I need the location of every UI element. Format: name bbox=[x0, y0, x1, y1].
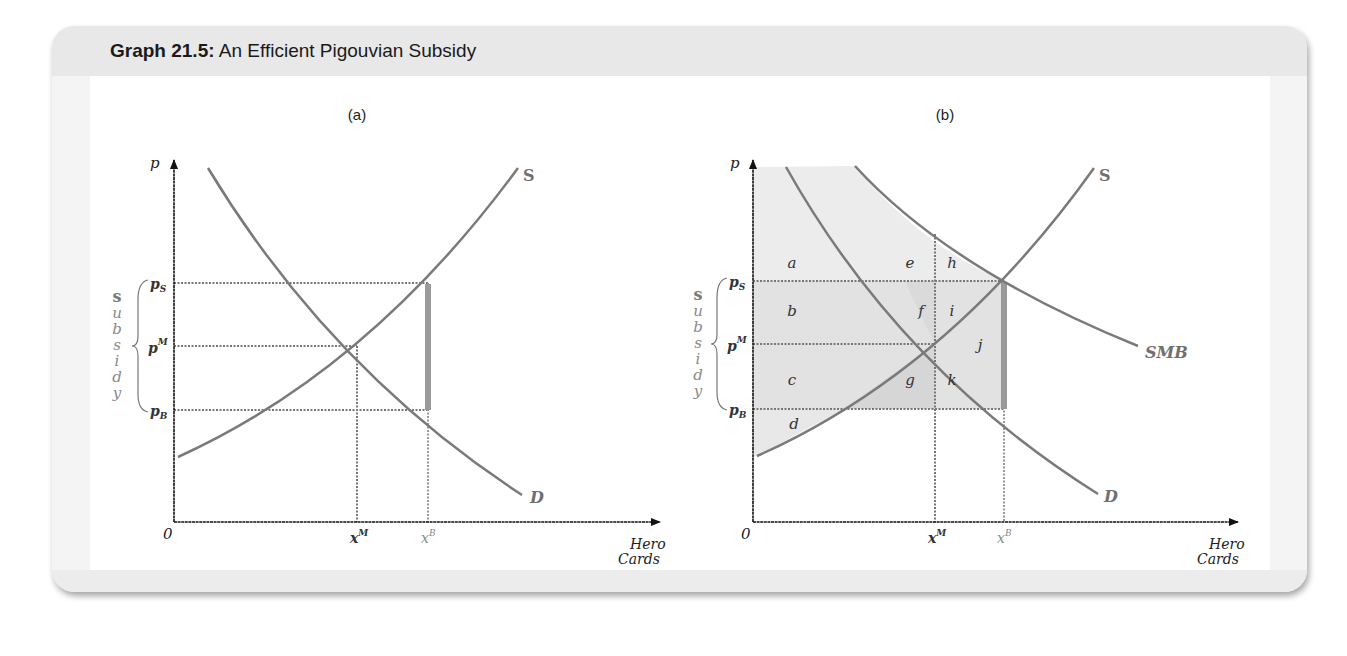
demand-label: D bbox=[1103, 487, 1118, 506]
panel-b: (b) S D SMB p 0 Hero Cards bbox=[693, 106, 1245, 567]
subsidy-vertical-label: s u b s i d y bbox=[693, 285, 703, 400]
y-axis-label: p bbox=[730, 154, 740, 172]
panel-b-label: (b) bbox=[936, 106, 954, 123]
panel-a-label: (a) bbox=[348, 106, 366, 123]
demand-label: D bbox=[529, 488, 544, 507]
pb-label: pB bbox=[729, 402, 747, 420]
xm-label: xM bbox=[927, 528, 947, 546]
ps-label: pS bbox=[150, 276, 167, 294]
price-labels: pS pM pB bbox=[727, 274, 748, 420]
svg-text:y: y bbox=[112, 384, 122, 402]
region-e: e bbox=[906, 254, 915, 272]
region-k: k bbox=[947, 371, 956, 389]
price-labels: pS pM pB bbox=[148, 276, 169, 421]
pb-label: pB bbox=[150, 403, 168, 421]
ps-label: pS bbox=[729, 274, 746, 292]
region-g: g bbox=[905, 371, 915, 389]
x-axis-label-line1: Hero bbox=[1208, 536, 1245, 552]
svg-text:y: y bbox=[693, 382, 703, 400]
panel-a: (a) S D p 0 Hero Cards pS pM pB bbox=[112, 106, 666, 567]
supply-label: S bbox=[1099, 166, 1111, 185]
demand-curve bbox=[208, 168, 522, 495]
region-a: a bbox=[788, 254, 797, 272]
shaded-region-d bbox=[753, 409, 845, 456]
y-axis-label: p bbox=[150, 154, 160, 172]
supply-label: S bbox=[523, 166, 535, 185]
origin-label: 0 bbox=[741, 525, 751, 543]
subsidy-brace bbox=[711, 278, 727, 410]
xb-label: xB bbox=[421, 528, 436, 546]
x-axis-label-line1: Hero bbox=[629, 536, 666, 552]
region-d: d bbox=[789, 415, 799, 433]
xb-label: xB bbox=[997, 528, 1012, 546]
supply-curve bbox=[178, 168, 518, 457]
region-i: i bbox=[950, 302, 955, 320]
region-b: b bbox=[787, 302, 797, 320]
x-axis-label-line2: Cards bbox=[618, 551, 660, 567]
pm-label: pM bbox=[727, 335, 748, 354]
origin-label: 0 bbox=[163, 525, 173, 543]
subsidy-brace bbox=[132, 280, 148, 412]
region-h: h bbox=[947, 254, 957, 272]
panel-a-guides bbox=[174, 283, 428, 522]
pm-label: pM bbox=[148, 337, 169, 356]
graphs-svg: (a) S D p 0 Hero Cards pS pM pB bbox=[0, 0, 1347, 656]
smb-label: SMB bbox=[1145, 343, 1188, 362]
xm-label: xM bbox=[349, 528, 369, 546]
x-axis-label-line2: Cards bbox=[1197, 551, 1239, 567]
region-c: c bbox=[788, 371, 797, 389]
subsidy-vertical-label: s u b s i d y bbox=[112, 287, 122, 402]
